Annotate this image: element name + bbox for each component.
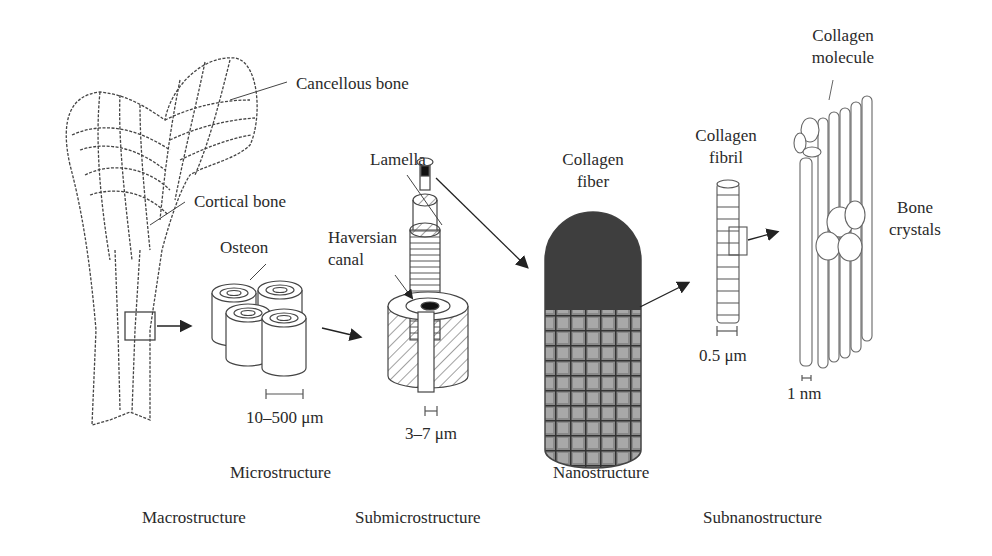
label-bone-crystals-line1: Bone — [880, 198, 950, 218]
collagen-fibril-illustration — [717, 180, 747, 323]
label-cancellous-bone: Cancellous bone — [296, 74, 409, 94]
level-subnanostructure: Subnanostructure — [703, 508, 822, 528]
label-collagen-molecule-line1: Collagen — [803, 26, 883, 46]
label-collagen-molecule-line2: molecule — [803, 48, 883, 68]
osteon-illustration — [212, 281, 306, 376]
label-haversian-canal-line1: Haversian — [328, 228, 397, 248]
level-submicrostructure: Submicrostructure — [355, 508, 481, 528]
label-collagen-fiber-line2: fiber — [553, 172, 633, 192]
scale-fibril: 0.5 μm — [699, 346, 747, 366]
label-bone-crystals-line2: crystals — [880, 220, 950, 240]
collagen-fiber-illustration — [545, 212, 641, 468]
label-collagen-fibril-line2: fibril — [686, 148, 766, 168]
label-lamella: Lamella — [370, 150, 426, 170]
lamella-illustration — [388, 158, 468, 392]
scale-lamella: 3–7 μm — [405, 424, 457, 444]
collagen-molecule-illustration — [794, 96, 872, 368]
label-osteon: Osteon — [220, 238, 268, 258]
level-microstructure: Microstructure — [230, 463, 331, 483]
level-macrostructure: Macrostructure — [142, 508, 246, 528]
label-collagen-fibril-line1: Collagen — [686, 126, 766, 146]
label-collagen-fiber-line1: Collagen — [553, 150, 633, 170]
scale-osteon: 10–500 μm — [246, 408, 324, 428]
label-cortical-bone: Cortical bone — [194, 192, 286, 212]
scale-molecule: 1 nm — [787, 384, 821, 404]
bone-hierarchy-diagram: Cancellous bone Cortical bone Osteon Hav… — [0, 0, 992, 556]
level-nanostructure: Nanostructure — [553, 463, 649, 483]
diagram-artwork — [0, 0, 992, 556]
label-haversian-canal-line2: canal — [328, 250, 364, 270]
